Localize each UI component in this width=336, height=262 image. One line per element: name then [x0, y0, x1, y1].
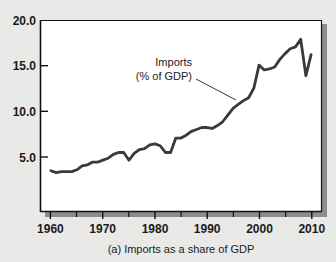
annotation-line-2: (% of GDP)	[136, 70, 192, 82]
figure-caption: (a) Imports as a share of GDP	[108, 243, 255, 255]
x-tick-label-1980: 1980	[142, 222, 169, 236]
plot-area-background	[40, 20, 322, 212]
y-tick-label-5: 5.0	[19, 151, 36, 165]
y-tick-label-15: 15.0	[13, 59, 37, 73]
y-tick-label-20: 20.0	[13, 14, 37, 28]
annotation-line-1: Imports	[155, 56, 192, 68]
x-tick-label-2010: 2010	[298, 222, 325, 236]
x-tick-label-1990: 1990	[194, 222, 221, 236]
x-tick-label-1960: 1960	[37, 222, 64, 236]
x-tick-label-1970: 1970	[89, 222, 116, 236]
y-tick-label-10: 10.0	[13, 105, 37, 119]
imports-share-of-gdp-chart: 20.0 15.0 10.0 5.0 1960 1970 1980	[0, 0, 336, 262]
figure-panel: 20.0 15.0 10.0 5.0 1960 1970 1980	[0, 0, 336, 262]
x-tick-label-2000: 2000	[246, 222, 273, 236]
